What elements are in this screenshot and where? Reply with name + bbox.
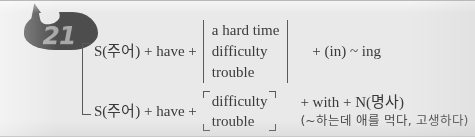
rule-1-option: trouble [212,62,279,83]
bracket-corner-bottom-left [203,124,210,131]
outer-grouping-bracket [82,43,91,115]
bracket-corner-top-right [269,91,276,98]
bracket-left-spine [203,20,204,83]
bracket-corner-bottom-right [269,124,276,131]
rule-1-stem: S(주어) + have + [91,44,201,59]
formula-block: S(주어) + have + a hard time difficulty tr… [82,15,469,135]
rule-2-option: difficulty [212,91,268,111]
rule-row: S(주어) + have + difficulty trouble + with… [91,87,469,135]
rule-2-option: trouble [212,111,268,131]
rule-2-stem: S(주어) + have + [91,104,201,119]
rule-2-gloss: (~하는데 애를 먹다, 고생하다) [300,115,468,128]
bracket-right-spine [287,20,288,83]
rule-1-options-bracket: a hard time difficulty trouble [203,20,288,83]
rule-1-option: difficulty [212,41,279,62]
rule-2-tail: + with + N(명사) [300,95,468,110]
rule-list: S(주어) + have + a hard time difficulty tr… [91,15,469,135]
rule-2-options-bracket: difficulty trouble [203,91,277,131]
bracket-corner-top-left [203,91,210,98]
rule-1-tail: + (in) ~ ing [290,44,381,59]
rule-2-tail-group: + with + N(명사) (~하는데 애를 먹다, 고생하다) [278,95,468,128]
grammar-pattern-card: 21 S(주어) + have + a hard time difficulty… [0,0,475,137]
rule-1-option: a hard time [212,20,279,41]
rule-row: S(주어) + have + a hard time difficulty tr… [91,15,469,87]
